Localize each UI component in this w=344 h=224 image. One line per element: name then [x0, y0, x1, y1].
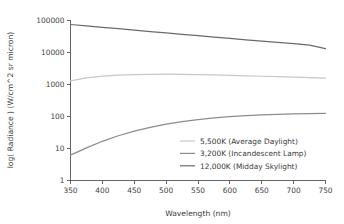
x-tick-label: 600	[223, 186, 237, 195]
legend-label: 5,500K (Average Daylight)	[200, 137, 298, 146]
radiance-spectral-chart: 110100100010000100000 350400450500550600…	[0, 0, 344, 224]
y-axis-ticks	[67, 21, 71, 181]
y-tick-label: 1000	[46, 80, 65, 89]
x-tick-label: 700	[287, 186, 301, 195]
x-tick-label: 550	[191, 186, 205, 195]
x-tick-label: 350	[63, 186, 77, 195]
series-line	[71, 25, 326, 49]
chart-canvas: 110100100010000100000 350400450500550600…	[0, 0, 344, 224]
x-tick-label: 650	[255, 186, 269, 195]
x-tick-label: 750	[318, 186, 332, 195]
x-tick-label: 400	[95, 186, 109, 195]
legend-label: 12,000K (Midday Skylight)	[200, 162, 297, 171]
y-tick-label: 1	[60, 176, 65, 185]
y-tick-label: 10000	[41, 48, 65, 57]
chart-legend: 5,500K (Average Daylight)3,200K (Incande…	[180, 137, 307, 171]
y-tick-label: 100000	[36, 16, 65, 25]
x-axis-tick-labels: 350400450500550600650700750	[63, 186, 332, 195]
data-series-group	[71, 25, 326, 156]
y-tick-label: 100	[50, 112, 64, 121]
x-tick-label: 450	[127, 186, 141, 195]
series-line	[71, 74, 326, 81]
y-axis-title: log( Radiance ) (W/cm^2 sr micron)	[6, 32, 15, 169]
x-axis-ticks	[71, 181, 326, 185]
y-tick-label: 10	[55, 144, 65, 153]
legend-label: 3,200K (Incandescent Lamp)	[200, 149, 307, 158]
x-axis-title: Wavelength (nm)	[165, 209, 231, 218]
x-tick-label: 500	[159, 186, 173, 195]
y-axis-tick-labels: 110100100010000100000	[36, 16, 65, 185]
